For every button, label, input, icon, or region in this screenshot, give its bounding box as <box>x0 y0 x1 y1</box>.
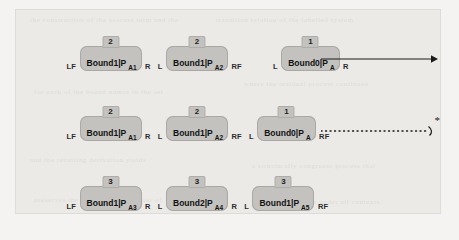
figure-panel: the construction of the process term and… <box>16 10 440 213</box>
node-tab-number: 1 <box>278 106 295 118</box>
process-node[interactable]: 3 Bound1|P A5 <box>252 186 314 211</box>
node-subscript: A4 <box>215 204 223 211</box>
port-label: L <box>154 63 166 71</box>
process-row: LF 3 Bound1|P A3 R L 3 Bound2|P A4 R L <box>63 178 332 224</box>
scanned-page: the construction of the process term and… <box>0 0 459 240</box>
port-label: RF <box>228 63 245 71</box>
port-label: R <box>228 203 241 211</box>
node-subscript: A3 <box>128 204 136 211</box>
node-tab-number: 1 <box>302 36 319 48</box>
node-tab-number: 2 <box>102 106 119 118</box>
port-label: RF <box>228 133 245 141</box>
process-node[interactable]: 2 Bound1|P A1 <box>80 116 142 141</box>
node-tab-number: 3 <box>275 176 292 188</box>
dotted-arrow-icon <box>321 122 439 138</box>
process-node[interactable]: 2 Bound1|P A2 <box>166 116 228 141</box>
node-label: Bound1|P <box>87 58 127 68</box>
node-subscript: A2 <box>215 134 223 141</box>
port-label: LF <box>63 133 80 141</box>
port-label: L <box>269 63 281 71</box>
node-subscript: A5 <box>301 204 309 211</box>
port-label: LF <box>63 203 80 211</box>
node-subscript: A1 <box>128 64 136 71</box>
arrow-star-marker: * <box>435 115 441 126</box>
node-body: Bound2|P A4 <box>173 198 221 211</box>
node-tab-number: 3 <box>189 176 206 188</box>
port-label: RF <box>314 203 331 211</box>
node-body: Bound1|P A2 <box>173 58 221 71</box>
ghost-text-line: for each of the bound names in the set <box>34 88 163 96</box>
process-node[interactable]: 2 Bound1|P A1 <box>80 46 142 71</box>
ghost-text-line: and the resulting derivation yields <box>30 156 146 164</box>
port-label: L <box>245 133 257 141</box>
node-body: Bound1|P A5 <box>259 198 307 211</box>
process-node[interactable]: 1 Bound0|P A <box>257 116 315 141</box>
port-label: R <box>142 203 155 211</box>
process-node[interactable]: 3 Bound2|P A4 <box>166 186 228 211</box>
node-tab-number: 2 <box>102 36 119 48</box>
ghost-text-line: a structurally congruent process that <box>252 162 376 170</box>
node-label: Bound0|P <box>264 128 304 138</box>
transition-arrow-dotted: * <box>321 122 439 142</box>
node-subscript: A2 <box>215 64 223 71</box>
node-body: Bound1|P A1 <box>87 58 135 71</box>
ghost-text-line: the construction of the process term and… <box>30 16 179 24</box>
node-label: Bound2|P <box>173 198 213 208</box>
node-tab-number: 2 <box>189 36 206 48</box>
ghost-text-line: transition relation of the labelled syst… <box>216 16 354 24</box>
port-label: L <box>154 133 166 141</box>
node-subscript: A1 <box>128 134 136 141</box>
port-label: L <box>241 203 253 211</box>
node-label: Bound1|P <box>87 198 127 208</box>
process-node[interactable]: 2 Bound1|P A2 <box>166 46 228 71</box>
port-label: LF <box>63 63 80 71</box>
node-body: Bound1|P A2 <box>173 128 221 141</box>
solid-arrow-icon <box>321 52 439 66</box>
node-label: Bound1|P <box>173 128 213 138</box>
port-label: R <box>142 63 155 71</box>
port-label: R <box>142 133 155 141</box>
node-tab-number: 3 <box>102 176 119 188</box>
node-label: Bound1|P <box>259 198 299 208</box>
port-label: L <box>154 203 166 211</box>
process-node[interactable]: 3 Bound1|P A3 <box>80 186 142 211</box>
node-label: Bound1|P <box>173 58 213 68</box>
node-tab-number: 2 <box>189 106 206 118</box>
node-body: Bound1|P A3 <box>87 198 135 211</box>
node-subscript: A <box>306 134 311 141</box>
transition-arrow-solid <box>321 52 439 72</box>
node-body: Bound1|P A1 <box>87 128 135 141</box>
process-row: LF 2 Bound1|P A1 R L 2 Bound1|P A2 RF L <box>63 38 352 84</box>
node-body: Bound0|P A <box>264 128 308 141</box>
process-row: LF 2 Bound1|P A1 R L 2 Bound1|P A2 RF L <box>63 108 333 154</box>
node-label: Bound1|P <box>87 128 127 138</box>
